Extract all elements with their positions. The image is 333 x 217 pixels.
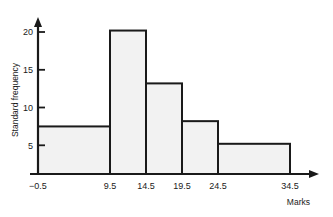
x-tick-label-24-5: 24.5 xyxy=(209,181,227,191)
bar-bin-1 xyxy=(38,126,110,174)
y-tick-label-10: 10 xyxy=(23,103,33,113)
histogram-figure: 5 10 15 20 −0.5 9.5 14.5 19.5 24.5 34.5 … xyxy=(0,0,333,217)
bar-bin-5 xyxy=(218,144,290,174)
histogram-svg: 5 10 15 20 −0.5 9.5 14.5 19.5 24.5 34.5 … xyxy=(0,0,333,217)
x-tick-label-14-5: 14.5 xyxy=(137,181,155,191)
x-axis-title: Marks xyxy=(287,197,310,207)
bar-bin-3 xyxy=(146,83,182,174)
y-tick-label-5: 5 xyxy=(28,141,33,151)
x-tick-label-9-5: 9.5 xyxy=(104,181,117,191)
x-tick-label-19-5: 19.5 xyxy=(173,181,191,191)
bar-bin-2 xyxy=(110,31,146,174)
y-axis-title: Standard frequency xyxy=(10,62,20,137)
bar-bin-4 xyxy=(182,121,218,174)
y-tick-label-15: 15 xyxy=(23,65,33,75)
x-tick-label-neg0-5: −0.5 xyxy=(29,181,47,191)
y-tick-label-20: 20 xyxy=(23,27,33,37)
x-tick-label-34-5: 34.5 xyxy=(281,181,299,191)
